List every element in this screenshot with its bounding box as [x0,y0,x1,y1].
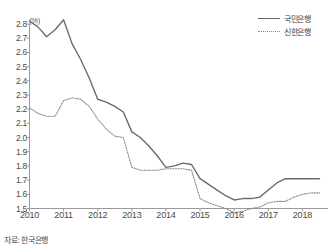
y-tick-label: 2.7 [16,33,27,43]
y-tick-label: 1.6 [16,189,27,199]
legend-item-kookmin[interactable]: 국민은행 [258,12,332,25]
chart-container: (%) 2.82.72.62.52.42.32.22.12.01.91.81.7… [0,0,332,252]
x-tick-label: 2010 [20,210,39,220]
y-tick-label: 2.2 [16,104,27,114]
axis-lines [30,24,329,209]
y-tick-label: 2.3 [16,90,27,100]
y-tick-label: 1.8 [16,161,27,171]
y-tick-label: 2.5 [16,62,27,72]
legend-solid-line-icon [258,15,280,23]
source-note: 자료: 한국은행 [4,234,48,245]
x-tick-label: 2018 [293,210,312,220]
y-tick-label: 2.1 [16,118,27,128]
x-tick-label: 2017 [259,210,278,220]
legend-label-kookmin: 국민은행 [284,13,311,24]
legend-label-shinhan: 신한은행 [284,26,311,37]
y-tick-label: 2.6 [16,47,27,57]
y-tick-label: 1.9 [16,147,27,157]
x-tick-label: 2015 [190,210,209,220]
x-tick-label: 2013 [122,210,141,220]
cropped-title-remnant [34,0,214,6]
y-tick-label: 1.7 [16,175,27,185]
y-tick-label: 2.4 [16,76,27,86]
legend-dotted-line-icon [258,28,280,36]
legend-item-shinhan[interactable]: 신한은행 [258,25,332,38]
y-tick-label: 2.8 [16,19,27,29]
data-series-lines [30,20,320,213]
x-tick-label: 2012 [88,210,107,220]
series-line-kookmin [30,20,320,200]
x-tick-label: 2016 [225,210,244,220]
chart-legend: 국민은행 신한은행 [258,12,332,38]
x-tick-label: 2011 [54,210,73,220]
y-tick-label: 2.0 [16,133,27,143]
y-axis-unit-label: (%) [29,16,40,25]
x-tick-label: 2014 [156,210,175,220]
series-line-shinhan [30,98,320,213]
